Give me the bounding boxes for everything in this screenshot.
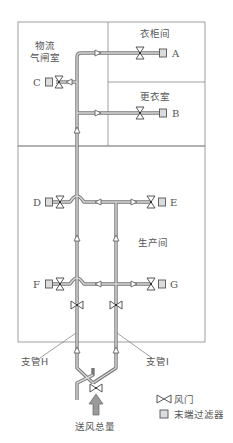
room-outlines xyxy=(18,22,205,342)
damper-main-icon xyxy=(90,384,102,392)
room-label-locker-room: 衣柜间 xyxy=(140,28,170,39)
terminal-filters xyxy=(46,49,167,288)
room-label-material-airlock-1: 物流 xyxy=(35,40,55,51)
filter-A-icon xyxy=(160,49,167,57)
room-label-material-airlock-2: 气闸室 xyxy=(30,52,60,63)
legend-damper-label: 风门 xyxy=(174,394,194,405)
outlet-label-E: E xyxy=(170,197,177,208)
outlet-label-C: C xyxy=(33,77,41,88)
duct-network xyxy=(50,53,162,400)
legend: 风门 末端过滤器 xyxy=(157,394,224,420)
branch-label-H: 支管H xyxy=(21,356,48,367)
room-label-production-room: 生产间 xyxy=(138,237,168,248)
filter-G-icon xyxy=(159,280,166,288)
branch-leaders xyxy=(40,333,152,358)
filter-B-icon xyxy=(160,109,167,117)
legend-damper-icon xyxy=(157,395,171,403)
outlet-label-D: D xyxy=(33,197,41,208)
outlet-label-A: A xyxy=(171,48,180,59)
main-supply-arrow-icon xyxy=(89,394,103,415)
filter-D-icon xyxy=(46,198,53,206)
air-supply-diagram: 物流 气闸室 衣柜间 更衣室 生产间 A B C D E F G 支管H 支管I… xyxy=(0,0,233,443)
legend-filter-label: 末端过滤器 xyxy=(174,409,224,420)
main-supply-label: 送风总量 xyxy=(75,421,115,432)
filter-E-icon xyxy=(159,198,166,206)
branch-label-I: 支管I xyxy=(146,356,169,367)
outlet-label-F: F xyxy=(33,279,40,290)
outlet-label-B: B xyxy=(172,108,179,119)
room-label-changing-room: 更衣室 xyxy=(140,91,170,102)
outlet-label-G: G xyxy=(170,279,178,290)
filter-F-icon xyxy=(46,280,53,288)
filter-C-icon xyxy=(46,78,53,86)
legend-filter-icon xyxy=(160,410,168,418)
